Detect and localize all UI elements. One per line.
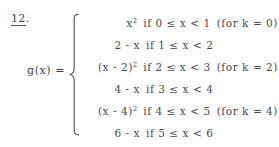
case-expression-base: (x - 4) [98, 105, 133, 117]
case-condition: if 0 ≤ x < 1 [143, 12, 210, 34]
case-condition: if 1 ≤ x < 2 [146, 34, 213, 56]
case-expression: 6 - x [82, 122, 146, 144]
case-note: (for k = 0) [211, 12, 278, 34]
case-expression-exponent: 2 [133, 61, 137, 69]
piecewise-cases-list: x2if 0 ≤ x < 1(for k = 0) 2 - xif 1 ≤ x … [82, 12, 278, 144]
case-expression: (x - 2)2 [82, 56, 143, 78]
function-label: g(x) = [27, 64, 65, 77]
case-expression-exponent: 2 [133, 17, 137, 25]
list-item: 4 - xif 3 ≤ x < 4 [82, 78, 278, 100]
list-item: (x - 4)2if 4 ≤ x < 5(for k = 4) [82, 100, 278, 122]
case-condition: if 4 ≤ x < 5 [143, 100, 210, 122]
large-brace-icon [69, 13, 81, 136]
case-condition: if 2 ≤ x < 3 [143, 56, 210, 78]
case-condition: if 5 ≤ x < 6 [146, 122, 213, 144]
case-expression-base: 4 - x [114, 83, 140, 95]
case-expression-base: 2 - x [114, 39, 140, 51]
case-expression: (x - 4)2 [82, 100, 143, 122]
list-item: 2 - xif 1 ≤ x < 2 [82, 34, 278, 56]
problem-number-period: . [26, 12, 30, 25]
case-note: (for k = 4) [211, 100, 278, 122]
list-item: 6 - xif 5 ≤ x < 6 [82, 122, 278, 144]
case-expression: 4 - x [82, 78, 146, 100]
list-item: (x - 2)2if 2 ≤ x < 3(for k = 2) [82, 56, 278, 78]
case-expression-base: 6 - x [114, 127, 140, 139]
case-expression: x2 [82, 12, 143, 34]
case-expression-exponent: 2 [133, 105, 137, 113]
case-note: (for k = 2) [211, 56, 278, 78]
problem-number: 12. [11, 12, 29, 25]
case-expression: 2 - x [82, 34, 146, 56]
case-condition: if 3 ≤ x < 4 [146, 78, 213, 100]
case-expression-base: (x - 2) [98, 61, 133, 73]
list-item: x2if 0 ≤ x < 1(for k = 0) [82, 12, 278, 34]
problem-number-value: 12 [11, 12, 26, 26]
